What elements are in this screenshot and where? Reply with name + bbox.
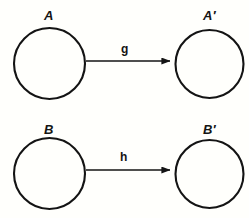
mapping-diagram: A A′ g B B′ h xyxy=(0,0,249,218)
set-label-b-prime: B′ xyxy=(203,123,216,136)
set-label-a: A xyxy=(44,9,53,22)
map-label-g: g xyxy=(121,43,128,55)
set-circle-b-prime xyxy=(176,140,244,208)
set-circle-a-prime xyxy=(176,30,244,98)
set-label-b: B xyxy=(44,123,53,136)
diagram-canvas xyxy=(0,0,249,218)
set-circle-a xyxy=(14,28,85,99)
set-circle-b xyxy=(14,138,85,209)
set-label-a-prime: A′ xyxy=(203,9,216,22)
map-label-h: h xyxy=(120,151,127,163)
